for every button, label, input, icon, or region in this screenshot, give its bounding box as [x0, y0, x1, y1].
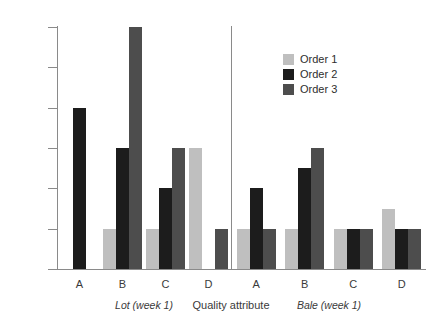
bar — [215, 229, 228, 269]
bar — [382, 209, 395, 270]
bar — [347, 229, 360, 269]
bar — [395, 229, 408, 269]
x-axis-category-label: C — [146, 278, 186, 290]
bar — [116, 148, 129, 269]
bar — [408, 229, 421, 269]
y-axis-tick — [48, 229, 57, 230]
legend-swatch — [283, 84, 294, 95]
x-axis-title: Quality attribute — [151, 299, 311, 311]
x-axis-category-label: B — [103, 278, 143, 290]
legend-item: Order 3 — [283, 82, 337, 96]
bar — [298, 168, 311, 269]
bar — [237, 229, 250, 269]
x-axis-category-label: A — [60, 278, 100, 290]
bar — [311, 148, 324, 269]
legend-swatch — [283, 69, 294, 80]
y-axis-tick — [48, 188, 57, 189]
bar — [250, 188, 263, 269]
bar — [172, 148, 185, 269]
bar-chart-figure: 0.01.02.03.04.05.06.0 ABCDLot (week 1)AB… — [0, 0, 443, 331]
legend-swatch — [283, 54, 294, 65]
bar — [285, 229, 298, 269]
bar — [263, 229, 276, 269]
bar — [189, 148, 202, 269]
bar — [360, 229, 373, 269]
legend-label: Order 2 — [300, 68, 337, 80]
x-axis-line — [57, 269, 426, 270]
y-axis-tick — [48, 27, 57, 28]
legend-item: Order 2 — [283, 67, 337, 81]
bar — [146, 229, 159, 269]
y-axis-tick — [48, 269, 57, 270]
bar — [129, 27, 142, 269]
legend: Order 1Order 2Order 3 — [283, 52, 337, 97]
bar — [73, 108, 86, 269]
y-axis-tick — [48, 108, 57, 109]
plot-area — [57, 27, 426, 269]
x-axis-category-label: D — [382, 278, 422, 290]
bar — [103, 229, 116, 269]
x-axis-category-label: C — [333, 278, 373, 290]
legend-label: Order 1 — [300, 53, 337, 65]
bar — [159, 188, 172, 269]
y-axis-tick — [48, 67, 57, 68]
legend-item: Order 1 — [283, 52, 337, 66]
legend-label: Order 3 — [300, 83, 337, 95]
x-axis-category-label: B — [285, 278, 325, 290]
bar — [334, 229, 347, 269]
y-axis-tick — [48, 148, 57, 149]
x-axis-category-label: A — [236, 278, 276, 290]
x-axis-category-label: D — [189, 278, 229, 290]
